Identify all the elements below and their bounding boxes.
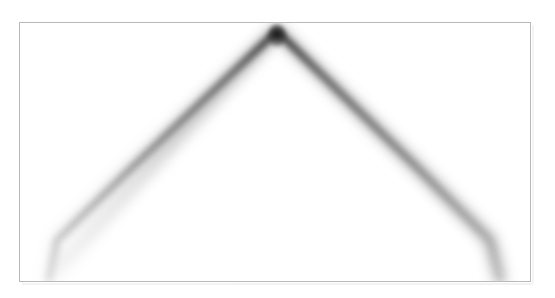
ridge-halo bbox=[49, 31, 500, 279]
ridge-right-branch bbox=[277, 31, 500, 279]
chart-plot-area bbox=[20, 23, 530, 281]
frame-shadow-right bbox=[532, 25, 534, 283]
apex-core bbox=[268, 25, 286, 47]
ridge-apex bbox=[268, 25, 286, 47]
figure-root bbox=[0, 0, 555, 298]
frame-shadow-bottom bbox=[22, 283, 533, 285]
ridge-band bbox=[49, 31, 500, 279]
ridge-halo-path bbox=[49, 31, 500, 279]
plot-frame bbox=[19, 22, 531, 282]
